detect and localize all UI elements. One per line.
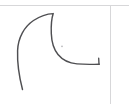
- sketch-surface[interactable]: [0, 0, 129, 104]
- canvas-background: [0, 0, 129, 104]
- sketch-canvas[interactable]: [0, 0, 129, 104]
- ink-speck: [61, 45, 63, 47]
